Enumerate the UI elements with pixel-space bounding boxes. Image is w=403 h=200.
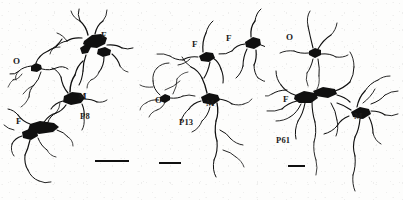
age-label-p8: P8	[80, 112, 90, 121]
panel-p13: F F O M P13	[135, 0, 265, 200]
scale-bar-p8	[95, 160, 129, 162]
scale-bar-p13	[159, 162, 181, 164]
cell-label-m: M	[78, 92, 87, 101]
panel-p61: O F M P61	[265, 0, 403, 200]
cell-label-m: M	[206, 99, 215, 108]
neuron-tracing-p8	[0, 0, 135, 200]
cell-label-m: M	[354, 112, 363, 121]
cell-label-f-left: F	[192, 40, 198, 49]
cell-label-f-right: F	[226, 34, 232, 43]
cell-label-o: O	[13, 57, 20, 66]
cell-label-o: O	[155, 96, 162, 105]
panel-p8: O F M F P8	[0, 0, 135, 200]
cell-label-f-lower: F	[16, 117, 22, 126]
age-label-p13: P13	[179, 118, 193, 127]
cell-label-o: O	[286, 33, 293, 42]
micrograph-figure: O F M F P8	[0, 0, 403, 200]
cell-label-f: F	[283, 95, 289, 104]
age-label-p61: P61	[276, 136, 290, 145]
scale-bar-p61	[288, 165, 305, 167]
cell-label-f-upper: F	[101, 31, 107, 40]
